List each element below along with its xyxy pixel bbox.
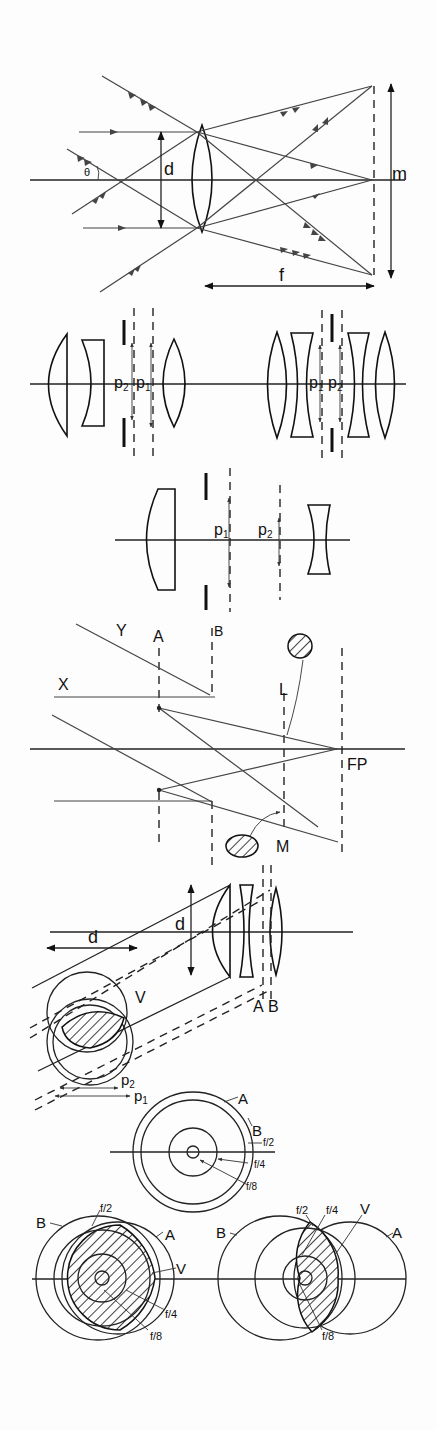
lens-l-label: L [279,681,288,698]
v-label: V [176,1260,186,1277]
figure-canvas: d θ m f p2 p1 p1 [0,0,437,1430]
biconcave-lens [348,333,369,437]
ray [100,228,197,292]
beam-edge-dashed [35,985,262,1100]
ray [197,228,372,275]
panel-pupil-positions: p1 p2 [115,468,350,612]
ray [102,76,197,132]
ray [159,790,338,842]
left-p2-label: p2 [114,374,129,393]
image-size-label: m [392,164,407,184]
b-label: B [252,1122,262,1139]
plano-convex-lens [49,334,68,436]
b-label: B [36,1214,46,1231]
f4-label: f/4 [254,1159,266,1170]
left-off-axis-group: B f/2 A V f/4 f/8 [36,1202,186,1342]
a-label: A [392,1224,402,1241]
right-off-axis-group: B f/2 f/4 V A f/8 [216,1200,406,1342]
panel-vignetting-rays: Y A B X L FP M [30,622,405,868]
beam-diameter-label: d [88,927,98,947]
right-p1-label: p1 [309,374,324,393]
f4-label: f/4 [165,1308,177,1320]
right-p2-label: p2 [328,374,343,393]
a-label: A [165,1226,175,1243]
ray-arrowheads [77,92,328,276]
stop-edge-point [157,706,161,710]
plano-convex-lens [213,885,231,977]
f8-label: f/8 [150,1330,162,1342]
panel-lens-ray-geometry: d θ m f [30,76,407,292]
left-p1-label: p1 [136,374,151,393]
f2-label: f/2 [100,1202,112,1214]
ray [72,132,197,214]
vignetted-area-label: V [135,989,146,1006]
meniscus-lens [82,340,104,426]
cross-section-l [288,634,312,658]
p1-label: p1 [214,521,229,540]
leader-f2 [92,1210,100,1226]
ray-y [76,624,210,695]
vignetted-area [62,1012,124,1048]
f2-label: f/2 [263,1137,275,1148]
lens-m-label: M [276,838,289,855]
leader-a [224,1097,238,1102]
biconvex-lens [268,332,287,438]
leader-f4 [218,1159,248,1163]
stop-b-label: B [214,623,223,639]
stop-b-label: B [268,998,279,1015]
biconcave-lens [240,885,253,977]
ray-y-label: Y [116,622,127,639]
leader-a [156,1232,163,1237]
leader-line-l [287,660,303,735]
p1-label: p1 [134,1087,148,1106]
ray [52,715,212,802]
ray [197,180,372,228]
ray [197,86,372,228]
a-label: A [238,1090,248,1107]
vignetted-area [68,1225,155,1330]
ray [197,132,372,180]
vignetted-area [296,1222,338,1332]
stop-a-label: A [153,628,164,645]
diameter-label: d [164,159,174,179]
theta-label: θ [84,166,90,178]
b-label: B [216,1224,226,1241]
biconvex-lens [163,339,185,427]
beam-edge-dashed [35,990,270,1110]
leader-v [152,1268,176,1273]
ray [197,86,372,132]
focal-length-label: f [279,265,285,285]
ray [159,749,337,790]
f8-label: f/8 [246,1181,258,1192]
panel-two-lens-systems: p2 p1 p1 p2 [30,308,406,462]
ray-x-label: X [58,676,69,693]
stop-edge-point [157,788,161,792]
f4-label: f/4 [326,1204,338,1216]
stop-a-label: A [253,998,264,1015]
v-label: V [360,1200,370,1217]
lens-diameter-label: d [175,914,185,934]
biconvex-lens [376,332,395,438]
panel-concentric-apertures: A B f/2 f/4 f/8 [110,1090,275,1212]
panel-off-axis-apertures: B f/2 A V f/4 f/8 B f/2 f/4 V A [32,1200,406,1342]
panel-oblique-beam: d d V A B p2 p1 [30,865,353,1110]
f2-label: f/2 [296,1204,308,1216]
focal-plane-label: FP [347,756,367,773]
leader-b [50,1223,62,1226]
cross-section-m [226,835,258,857]
optics-figure: d θ m f p2 p1 p1 [0,0,437,1430]
leader-v [335,1215,362,1255]
beam-edge-dashed [30,900,262,1028]
p2-label: p2 [258,521,273,540]
f8-label: f/8 [322,1330,334,1342]
